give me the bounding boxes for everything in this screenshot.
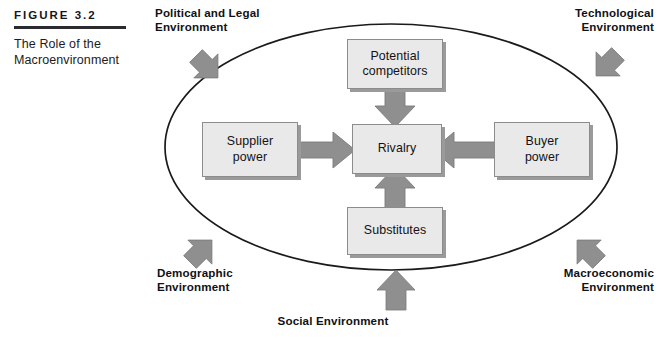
arrow-potential-competitors-to-rivalry: [374, 84, 416, 128]
label-line-1: Political and Legal: [155, 6, 260, 20]
box-label-line-1: Rivalry: [378, 141, 417, 157]
label-political-and-legal-environment: Political and Legal Environment: [155, 6, 260, 34]
box-label-line-2: power: [227, 150, 273, 166]
box-rivalry: Rivalry: [352, 124, 442, 174]
figure-title: The Role of the Macroenvironment: [14, 36, 134, 69]
box-label-line-1: Supplier: [227, 134, 273, 150]
box-label-line-2: competitors: [362, 64, 427, 80]
box-potential-competitors: Potential competitors: [347, 39, 443, 89]
label-technological-environment: Technological Environment: [575, 6, 654, 34]
box-label-line-1: Substitutes: [364, 223, 426, 239]
box-buyer-power: Buyer power: [494, 122, 590, 177]
social-environment-arrow: [377, 270, 415, 310]
box-label-line-2: power: [525, 150, 559, 166]
box-label-line-1: Potential: [362, 49, 427, 65]
box-label-line-1: Buyer: [525, 134, 559, 150]
figure-number: FIGURE 3.2: [14, 8, 134, 22]
label-line-2: Environment: [155, 20, 260, 34]
box-supplier-power: Supplier power: [202, 122, 298, 177]
figure-caption: FIGURE 3.2 The Role of the Macroenvironm…: [14, 8, 134, 69]
label-line-2: Environment: [564, 280, 654, 294]
arrow-supplier-power-to-rivalry: [292, 131, 356, 169]
box-substitutes: Substitutes: [347, 207, 443, 255]
label-line-1: Social Environment: [0, 314, 666, 328]
label-line-2: Environment: [575, 20, 654, 34]
label-line-1: Technological: [575, 6, 654, 20]
label-line-2: Environment: [157, 280, 233, 294]
label-social-environment: Social Environment: [0, 314, 666, 328]
figure-container: FIGURE 3.2 The Role of the Macroenvironm…: [0, 0, 666, 338]
label-line-1: Macroeconomic: [564, 266, 654, 280]
technological-environment-arrow: [584, 42, 630, 88]
political-environment-arrow: [184, 44, 230, 90]
label-macroeconomic-environment: Macroeconomic Environment: [564, 266, 654, 294]
label-line-1: Demographic: [157, 266, 233, 280]
caption-divider: [14, 26, 126, 29]
label-demographic-environment: Demographic Environment: [157, 266, 233, 294]
